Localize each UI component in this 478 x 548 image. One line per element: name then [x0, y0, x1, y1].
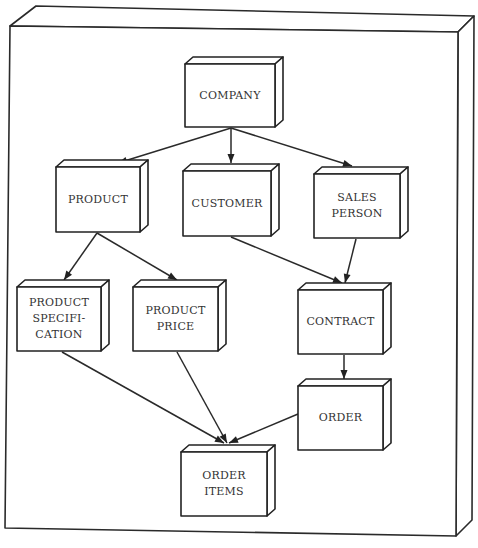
- entity-box-order-items: [181, 445, 275, 516]
- diagram-svg: [0, 0, 478, 548]
- box-top-face: [181, 445, 275, 452]
- box-side-face: [383, 283, 391, 354]
- box-side-face: [267, 445, 275, 516]
- box-top-face: [133, 280, 226, 287]
- box-top-face: [56, 160, 148, 167]
- box-top-face: [314, 167, 408, 174]
- entity-box-product: [56, 160, 148, 232]
- box-top-face: [183, 164, 279, 171]
- entity-box-product-price: [133, 280, 226, 351]
- entity-box-order: [298, 379, 391, 450]
- box-front-face: [314, 174, 400, 238]
- box-side-face: [275, 57, 283, 127]
- box-side-face: [271, 164, 279, 236]
- box-front-face: [183, 171, 271, 236]
- box-front-face: [298, 386, 383, 450]
- box-top-face: [298, 283, 391, 290]
- box-side-face: [140, 160, 148, 232]
- frame-side-face: [456, 16, 474, 536]
- box-front-face: [17, 287, 101, 351]
- box-top-face: [298, 379, 391, 386]
- entity-box-product-specification: [17, 280, 109, 351]
- entity-box-customer: [183, 164, 279, 236]
- box-side-face: [218, 280, 226, 351]
- box-side-face: [400, 167, 408, 238]
- entity-box-company: [185, 57, 283, 127]
- box-front-face: [181, 452, 267, 516]
- box-top-face: [17, 280, 109, 287]
- box-side-face: [383, 379, 391, 450]
- box-front-face: [185, 64, 275, 127]
- box-front-face: [133, 287, 218, 351]
- box-side-face: [101, 280, 109, 351]
- entity-box-contract: [298, 283, 391, 354]
- box-top-face: [185, 57, 283, 64]
- box-front-face: [56, 167, 140, 232]
- entity-box-sales-person: [314, 167, 408, 238]
- box-front-face: [298, 290, 383, 354]
